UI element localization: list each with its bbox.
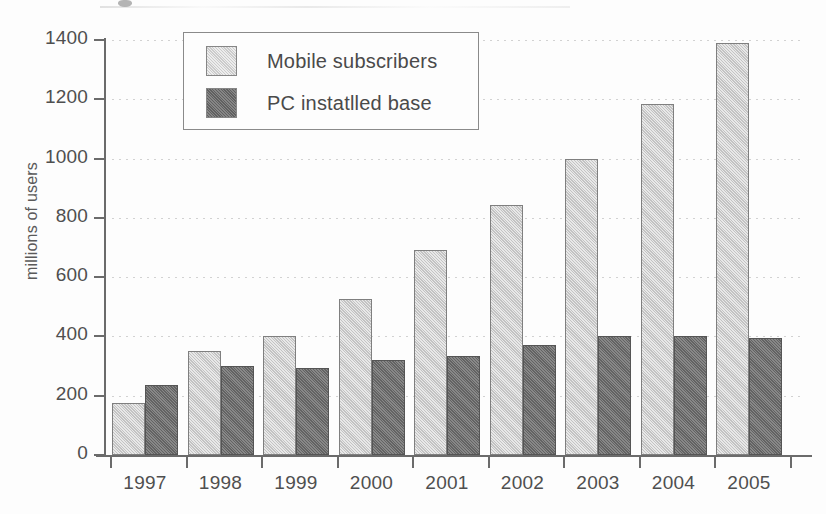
x-axis-tick-mark — [337, 456, 339, 468]
x-axis-tick-label: 2000 — [332, 472, 412, 494]
y-axis-tick-label: 200 — [26, 383, 88, 405]
chart-legend: Mobile subscribers PC instatlled base — [183, 32, 479, 130]
y-axis-tick-mark — [94, 39, 105, 41]
x-axis-tick-mark — [261, 456, 263, 468]
bar-2004-pc-installed-base — [674, 336, 707, 455]
x-axis-tick-label: 2005 — [709, 472, 789, 494]
legend-swatch-icon-mobile-subscribers — [206, 46, 237, 76]
y-axis-tick-label: 0 — [26, 442, 88, 464]
x-axis-tick-mark — [639, 456, 641, 468]
bar-2004-mobile-subscribers — [641, 104, 674, 455]
bar-1999-mobile-subscribers — [263, 336, 296, 455]
y-axis-title: millions of users — [23, 141, 41, 301]
x-axis-tick-label: 2004 — [634, 472, 714, 494]
bar-2000-pc-installed-base — [372, 360, 405, 455]
legend-label-pc-installed-base: PC instatlled base — [267, 92, 432, 115]
gridline — [112, 277, 804, 278]
clipped-caption-artifact-line — [100, 6, 570, 8]
bar-2001-pc-installed-base — [447, 356, 480, 455]
bar-2000-mobile-subscribers — [339, 299, 372, 455]
y-axis-tick-label: 1400 — [26, 27, 88, 49]
legend-item-pc-installed-base: PC instatlled base — [206, 88, 432, 118]
x-axis-tick-label: 2002 — [483, 472, 563, 494]
y-axis-tick-mark — [94, 158, 105, 160]
y-axis-tick-mark — [94, 395, 105, 397]
y-axis-tick-mark — [94, 454, 105, 456]
bar-1999-pc-installed-base — [296, 368, 329, 455]
x-axis-tick-label: 2003 — [558, 472, 638, 494]
x-axis-tick-mark — [412, 456, 414, 468]
bar-2003-pc-installed-base — [598, 336, 631, 455]
bar-2003-mobile-subscribers — [565, 159, 598, 455]
figure-bar-chart: 0200400600800100012001400 millions of us… — [0, 0, 826, 514]
legend-item-mobile-subscribers: Mobile subscribers — [206, 46, 437, 76]
gridline — [112, 159, 804, 160]
bar-1997-pc-installed-base — [145, 385, 178, 455]
y-axis-tick-mark — [94, 276, 105, 278]
x-axis-tick-label: 1997 — [105, 472, 185, 494]
bar-2002-mobile-subscribers — [490, 205, 523, 455]
y-axis-tick-mark — [94, 98, 105, 100]
y-axis-tick-label: 400 — [26, 323, 88, 345]
x-axis-tick-label: 1999 — [256, 472, 336, 494]
x-axis-tick-mark — [563, 456, 565, 468]
x-axis-tick-mark — [790, 456, 792, 468]
legend-swatch-icon-pc-installed-base — [206, 88, 237, 118]
bar-2005-mobile-subscribers — [716, 43, 749, 455]
bar-1998-mobile-subscribers — [188, 351, 221, 455]
x-axis-tick-label: 1998 — [181, 472, 261, 494]
x-axis-tick-mark — [110, 456, 112, 468]
legend-label-mobile-subscribers: Mobile subscribers — [267, 50, 437, 73]
x-axis-tick-mark — [488, 456, 490, 468]
y-axis-tick-label: 1200 — [26, 86, 88, 108]
bar-2002-pc-installed-base — [523, 345, 556, 455]
y-axis-tick-mark — [94, 335, 105, 337]
bar-1997-mobile-subscribers — [112, 403, 145, 455]
bar-2005-pc-installed-base — [749, 338, 782, 455]
x-axis-tick-mark — [714, 456, 716, 468]
y-axis-tick-mark — [94, 217, 105, 219]
bar-2001-mobile-subscribers — [414, 250, 447, 455]
bar-1998-pc-installed-base — [221, 366, 254, 455]
gridline — [112, 218, 804, 219]
x-axis-tick-label: 2001 — [407, 472, 487, 494]
x-axis-tick-mark — [186, 456, 188, 468]
x-axis-line — [96, 455, 812, 457]
